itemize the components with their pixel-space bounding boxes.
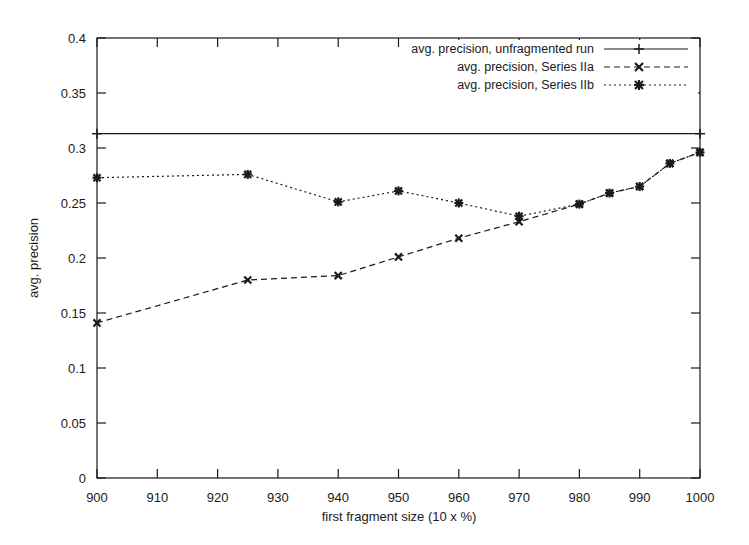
y-tick-label: 0.2 — [68, 251, 86, 266]
y-tick-label: 0.15 — [61, 306, 86, 321]
y-tick-label: 0.25 — [61, 196, 86, 211]
series-0 — [92, 129, 705, 139]
asterisk-icon — [665, 159, 674, 168]
y-tick-label: 0.35 — [61, 86, 86, 101]
x-tick-label: 990 — [629, 490, 651, 505]
y-tick-label: 0.4 — [68, 31, 86, 46]
y-tick-label: 0.1 — [68, 361, 86, 376]
x-tick-label: 940 — [327, 490, 349, 505]
legend-label-unfragmented: avg. precision, unfragmented run — [411, 42, 594, 56]
asterisk-icon — [696, 148, 705, 157]
x-tick-label: 930 — [267, 490, 289, 505]
asterisk-icon — [454, 199, 463, 208]
cross-icon — [244, 276, 251, 283]
y-tick-label: 0.3 — [68, 141, 86, 156]
line-chart: 00.050.10.150.20.250.30.350.4 9009109209… — [0, 0, 749, 545]
asterisk-icon — [605, 189, 614, 198]
x-tick-label: 960 — [448, 490, 470, 505]
y-axis-title: avg. precision — [26, 218, 41, 298]
plus-icon — [695, 129, 705, 139]
x-tick-label: 970 — [508, 490, 530, 505]
x-tick-label: 920 — [207, 490, 229, 505]
x-axis-ticks: 9009109209309409509609709809901000 — [86, 38, 714, 505]
cross-icon — [395, 253, 402, 260]
y-tick-label: 0.05 — [61, 416, 86, 431]
plus-icon — [92, 129, 102, 139]
x-tick-label: 910 — [146, 490, 168, 505]
y-tick-label: 0 — [79, 471, 86, 486]
series-layer — [92, 129, 705, 327]
asterisk-icon — [634, 80, 644, 90]
x-tick-label: 900 — [86, 490, 108, 505]
asterisk-icon — [394, 186, 403, 195]
asterisk-icon — [243, 170, 252, 179]
asterisk-icon — [515, 212, 524, 221]
y-axis-ticks: 00.050.10.150.20.250.30.350.4 — [61, 31, 700, 486]
x-tick-label: 980 — [569, 490, 591, 505]
legend-label-series-iia: avg. precision, Series IIa — [457, 60, 594, 74]
x-tick-label: 1000 — [686, 490, 715, 505]
x-axis-title: first fragment size (10 x %) — [322, 509, 477, 524]
asterisk-icon — [334, 197, 343, 206]
chart-container: 00.050.10.150.20.250.30.350.4 9009109209… — [0, 0, 749, 545]
series-2 — [93, 148, 705, 221]
cross-icon — [455, 235, 462, 242]
series-1 — [93, 149, 703, 327]
legend: avg. precision, unfragmented run avg. pr… — [404, 40, 698, 96]
asterisk-icon — [575, 200, 584, 209]
asterisk-icon — [93, 173, 102, 182]
x-tick-label: 950 — [388, 490, 410, 505]
legend-label-series-iib: avg. precision, Series IIb — [457, 78, 594, 92]
asterisk-icon — [635, 182, 644, 191]
